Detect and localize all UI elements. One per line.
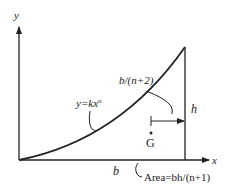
centroid-label: G	[146, 136, 155, 150]
centroid-offset-label: b/(n+2)	[119, 74, 154, 87]
centroid-offset-leader	[146, 91, 172, 114]
height-label: h	[191, 102, 197, 116]
centroid-point	[150, 132, 153, 135]
y-axis-label: y	[13, 9, 19, 21]
curve-y-kxn	[19, 47, 185, 160]
curve-equation-label: y=kxn	[75, 97, 102, 109]
base-label: b	[113, 164, 119, 178]
area-leader	[136, 163, 142, 177]
curve-equation-leader	[89, 111, 96, 131]
x-axis-label: x	[211, 154, 217, 166]
spandrel-diagram: y x h b/(n+2) G y=kxn b Area=bh/(n+1)	[0, 0, 231, 194]
area-label: Area=bh/(n+1)	[144, 171, 210, 184]
